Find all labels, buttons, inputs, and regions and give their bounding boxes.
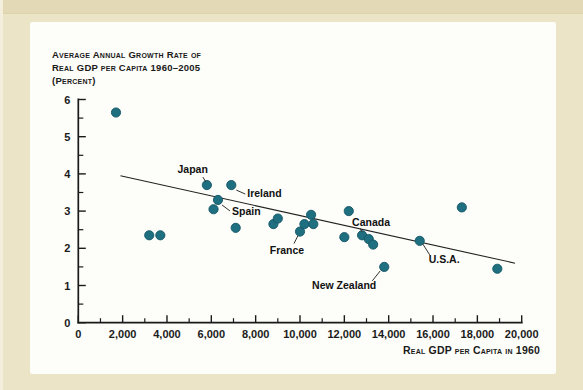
x-tick-label: 18,000: [461, 328, 495, 340]
x-tick-label: 16,000: [416, 328, 450, 340]
data-point: [309, 220, 318, 229]
country-label: U.S.A.: [429, 253, 460, 265]
x-tick-label: 8,000: [242, 328, 270, 340]
data-point: [380, 262, 389, 271]
y-tick-label: 5: [64, 131, 70, 143]
chart-panel: Average Annual Growth Rate of Real GDP p…: [30, 22, 556, 374]
y-tick-label: 3: [64, 205, 70, 217]
page-left-edge: [0, 0, 3, 390]
data-point: [213, 195, 222, 204]
country-label: Spain: [232, 205, 261, 217]
data-points: [111, 108, 502, 273]
country-label: New Zealand: [312, 279, 376, 291]
page-top-band: [0, 0, 583, 14]
label-leader-line: [294, 236, 298, 244]
scatter-plot: 02,0004,0006,0008,00010,00012,00014,0001…: [30, 22, 556, 374]
data-point: [493, 264, 502, 273]
x-tick-label: 6,000: [198, 328, 226, 340]
label-leader-line: [236, 190, 245, 194]
axes: [78, 99, 523, 324]
y-tick-label: 0: [64, 317, 70, 329]
y-tick-label: 2: [64, 242, 70, 254]
country-label: Ireland: [247, 187, 281, 199]
data-point: [231, 223, 240, 232]
data-point: [300, 220, 309, 229]
x-tick-label: 20,000: [505, 328, 539, 340]
label-leader-line: [222, 205, 230, 211]
data-point: [156, 231, 165, 240]
x-tick-label: 10,000: [283, 328, 317, 340]
country-label: Japan: [178, 163, 208, 175]
x-tick-label: 12,000: [328, 328, 362, 340]
data-point: [340, 233, 349, 242]
country-label: Canada: [352, 216, 390, 228]
data-point: [227, 180, 236, 189]
data-point: [344, 207, 353, 216]
data-point: [457, 203, 466, 212]
trend-line: [120, 176, 515, 263]
data-point: [202, 180, 211, 189]
y-ticks: 0123456: [64, 94, 86, 329]
x-tick-label: 14,000: [372, 328, 406, 340]
country-label: France: [270, 244, 305, 256]
data-point: [306, 210, 315, 219]
y-tick-label: 1: [64, 280, 70, 292]
data-point: [145, 231, 154, 240]
country-annotations: JapanIrelandSpainFranceCanadaU.S.A.New Z…: [178, 163, 460, 291]
figure-stage: Average Annual Growth Rate of Real GDP p…: [0, 0, 583, 390]
data-point: [209, 205, 218, 214]
x-axis-title: Real GDP per Capita in 1960: [280, 344, 540, 356]
data-point: [369, 240, 378, 249]
y-tick-label: 6: [64, 94, 70, 106]
data-point: [273, 214, 282, 223]
data-point: [111, 108, 120, 117]
x-tick-label: 0: [75, 328, 81, 340]
x-ticks: 02,0004,0006,0008,00010,00012,00014,0001…: [75, 315, 538, 340]
y-tick-label: 4: [64, 168, 71, 180]
x-tick-label: 2,000: [109, 328, 137, 340]
x-tick-label: 4,000: [153, 328, 181, 340]
